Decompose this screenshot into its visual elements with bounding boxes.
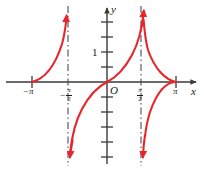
pi-symbol: π [66,87,72,94]
x-tick-label-pos-pi-half: π 2 [137,87,143,104]
x-axis-label: x [191,86,196,97]
pi-symbol: π [173,87,178,96]
curve-branch-right [144,20,176,82]
y-axis-label: y [111,4,116,15]
curve-branch-middle-lower-arrow [70,140,73,157]
denominator: 2 [137,96,143,103]
origin-label: O [110,85,118,96]
y-tick-label-1: 1 [92,47,98,58]
pi-symbol: π [137,87,143,94]
curve-branch-right-lower-arrow [143,135,145,157]
fraction-pi-over-2: π 2 [137,87,143,104]
pi-symbol: π [29,87,34,96]
minus-sign: − [23,87,28,96]
x-tick-label-pos-pi: π [173,87,178,96]
tangent-function-figure: x y O 1 − π − π 2 π 2 π [0,0,204,170]
x-tick-label-neg-pi: − π [23,87,34,96]
x-tick-label-neg-pi-half: − π 2 [60,87,72,104]
minus-sign: − [60,91,65,100]
plot-canvas [0,0,204,170]
curve-branch-left [32,16,67,82]
denominator: 2 [66,96,72,103]
curve-branch-right-lower [145,82,176,136]
fraction-pi-over-2: π 2 [66,87,72,104]
